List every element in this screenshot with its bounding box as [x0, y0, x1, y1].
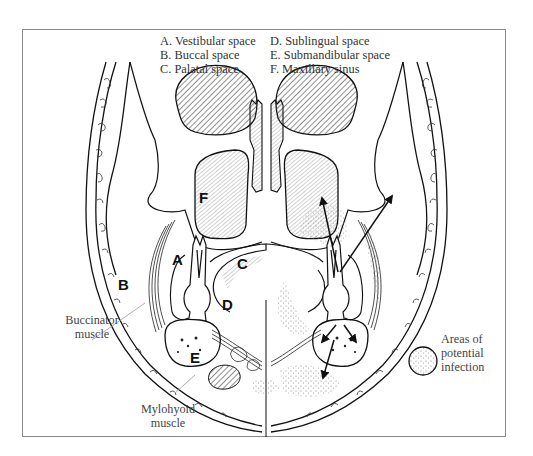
label-submandibular-space: E	[190, 349, 200, 366]
label-palatal-space: C	[237, 255, 248, 272]
submandibular-gland	[209, 365, 241, 389]
legend-item-c: C. Palatal space	[160, 62, 256, 76]
legend-item-e: E. Submandibular space	[270, 48, 390, 62]
buccinator-muscle-fibers	[149, 220, 381, 332]
right-mandible	[313, 319, 368, 366]
legend-item-b: B. Buccal space	[160, 48, 256, 62]
label-maxillary-sinus: F	[199, 189, 208, 206]
label-vestibular-space: A	[172, 251, 183, 268]
legend-item-f: F. Maxillary sinus	[270, 62, 390, 76]
mylohyoid-muscle-label: Mylohyoid muscle	[128, 402, 208, 430]
label-buccal-space: B	[118, 276, 129, 293]
legend-item-a: A. Vestibular space	[160, 34, 256, 48]
nasal-cavity	[250, 100, 283, 192]
legend-column-2: D. Sublingual space E. Submandibular spa…	[270, 34, 390, 76]
buccinator-muscle-label: Buccinator muscle	[52, 313, 132, 341]
legend-item-d: D. Sublingual space	[270, 34, 390, 48]
maxilla-outline	[130, 62, 403, 250]
coronal-section-illustration	[0, 0, 533, 456]
infection-key-swatch	[409, 347, 437, 375]
label-sublingual-space: D	[222, 296, 233, 313]
infection-key-label: Areas of potential infection	[441, 332, 501, 374]
legend-column-1: A. Vestibular space B. Buccal space C. P…	[160, 34, 256, 76]
